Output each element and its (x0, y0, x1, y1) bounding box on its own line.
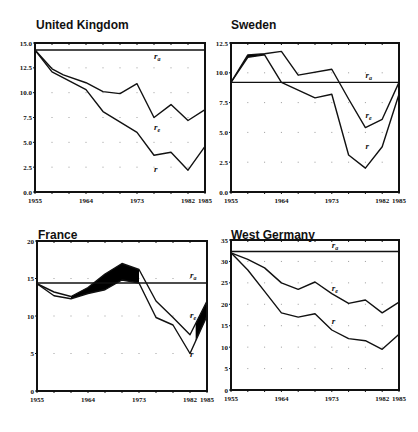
grid-dot (331, 368, 332, 369)
x-tick-label: 1973 (325, 395, 340, 403)
grid-dot (315, 261, 316, 262)
grid-dot (71, 316, 72, 317)
grid-dot (105, 353, 106, 354)
grid-dot (52, 92, 53, 93)
y-tick-label: 30 (221, 258, 229, 266)
grid-dot (382, 325, 383, 326)
grid-dot (173, 353, 174, 354)
grid-dot (315, 347, 316, 348)
grid-dot (382, 132, 383, 133)
series-line-r (231, 253, 399, 349)
grid-dot (365, 102, 366, 103)
series-label-r-e: re (365, 110, 372, 121)
grid-dot (298, 72, 299, 73)
grid-dot (120, 67, 121, 68)
grid-dot (71, 353, 72, 354)
grid-dot (139, 316, 140, 317)
grid-dot (69, 167, 70, 168)
grid-dot (52, 142, 53, 143)
y-tick-label: 10 (27, 313, 35, 321)
y-tick-label: 35 (221, 237, 229, 245)
grid-dot (348, 102, 349, 103)
grid-dot (331, 261, 332, 262)
grid-dot (69, 67, 70, 68)
y-tick-label: 15.0 (20, 40, 33, 48)
grid-dot (188, 67, 189, 68)
grid-dot (281, 162, 282, 163)
x-tick-label: 1982 (375, 197, 390, 205)
grid-dot (86, 117, 87, 118)
y-tick-label: 0.0 (23, 189, 32, 197)
y-tick-label: 0 (225, 387, 229, 395)
grid-dot (88, 278, 89, 279)
grid-dot (348, 162, 349, 163)
grid-dot (331, 162, 332, 163)
grid-dot (365, 132, 366, 133)
grid-dot (281, 368, 282, 369)
grid-dot (137, 167, 138, 168)
grid-dot (331, 304, 332, 305)
charts-canvas: rarer0.02.55.07.510.012.515.019551964197… (0, 0, 418, 432)
grid-dot (348, 72, 349, 73)
grid-dot (315, 102, 316, 103)
grid-dot (264, 282, 265, 283)
grid-dot (331, 347, 332, 348)
grid-dot (122, 353, 123, 354)
grid-dot (382, 368, 383, 369)
series-label-r-e: re (332, 283, 339, 294)
grid-dot (348, 325, 349, 326)
grid-dot (171, 117, 172, 118)
x-tick-label: 1985 (200, 396, 215, 404)
grid-dot (264, 132, 265, 133)
grid-dot (382, 282, 383, 283)
grid-dot (86, 167, 87, 168)
grid-dot (281, 347, 282, 348)
x-tick-label: 1955 (28, 197, 43, 205)
grid-dot (247, 72, 248, 73)
y-tick-label: 5 (31, 350, 35, 358)
grid-dot (120, 167, 121, 168)
grid-dot (315, 325, 316, 326)
grid-dot (298, 325, 299, 326)
grid-dot (331, 102, 332, 103)
chart-west-germany: rarer0510152025303519551964197319821985 (221, 237, 407, 404)
grid-dot (348, 132, 349, 133)
grid-dot (281, 102, 282, 103)
x-tick-label: 1964 (79, 197, 94, 205)
grid-dot (348, 347, 349, 348)
grid-dot (382, 261, 383, 262)
grid-dot (188, 117, 189, 118)
grid-dot (264, 261, 265, 262)
series-label-r-a: ra (190, 270, 197, 281)
y-tick-label: 12.5 (20, 64, 33, 72)
grid-dot (382, 72, 383, 73)
x-tick-label: 1982 (181, 197, 196, 205)
grid-dot (365, 162, 366, 163)
x-tick-label: 1964 (274, 395, 289, 403)
grid-dot (52, 167, 53, 168)
grid-dot (348, 282, 349, 283)
grid-dot (315, 132, 316, 133)
x-tick-label: 1964 (274, 197, 289, 205)
x-tick-label: 1982 (183, 396, 198, 404)
grid-dot (365, 347, 366, 348)
series-label-r-a: ra (365, 70, 372, 81)
plot-frame (231, 43, 399, 192)
grid-dot (298, 261, 299, 262)
y-tick-label: 5.0 (23, 139, 32, 147)
x-tick-label: 1964 (81, 396, 96, 404)
series-label-r: r (365, 141, 369, 151)
grid-dot (247, 325, 248, 326)
grid-dot (382, 347, 383, 348)
chart-united-kingdom: rarer0.02.55.07.510.012.515.019551964197… (20, 40, 213, 206)
x-tick-label: 1955 (224, 395, 239, 403)
y-tick-label: 5.0 (219, 129, 228, 137)
grid-dot (365, 304, 366, 305)
grid-dot (382, 304, 383, 305)
series-label-r-a: ra (154, 51, 161, 62)
grid-dot (188, 92, 189, 93)
series-label-r-e: re (154, 122, 161, 133)
grid-dot (52, 117, 53, 118)
grid-dot (137, 92, 138, 93)
grid-dot (173, 278, 174, 279)
